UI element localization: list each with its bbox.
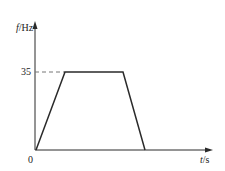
origin-label: 0 [28,155,33,165]
chart-canvas [0,0,225,171]
frequency-profile-line [36,72,145,150]
x-axis-arrow-icon [205,148,213,153]
x-axis-label: t/s [200,155,209,165]
y-axis-label: f/Hz [16,23,33,33]
x-axis-label-unit: /s [203,154,210,165]
y-tick-35: 35 [21,67,31,77]
y-axis-label-unit: /Hz [19,22,33,33]
y-axis-arrow-icon [33,21,38,29]
